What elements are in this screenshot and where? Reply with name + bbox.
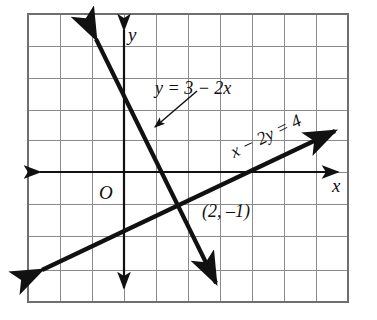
line1-equation-label: y = 3 − 2x [153, 78, 231, 98]
y-axis-label: y [126, 24, 137, 45]
coordinate-plane-svg: y x O y = 3 − 2x x − 2y = 4 (2, –1) [0, 0, 377, 320]
intersection-point-label: (2, –1) [202, 201, 250, 222]
graph-figure: y x O y = 3 − 2x x − 2y = 4 (2, –1) [0, 0, 377, 320]
x-axis-label: x [331, 175, 341, 196]
origin-label: O [99, 182, 113, 203]
